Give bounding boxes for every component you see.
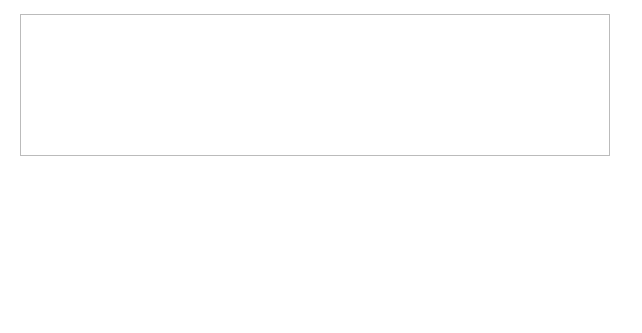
figure-frame (21, 15, 288, 155)
outer-frame-rect (20, 14, 287, 154)
frame-border (20, 14, 287, 154)
outer-frame (20, 14, 287, 154)
circular-flow-diagram (0, 0, 642, 333)
frame (21, 15, 287, 155)
